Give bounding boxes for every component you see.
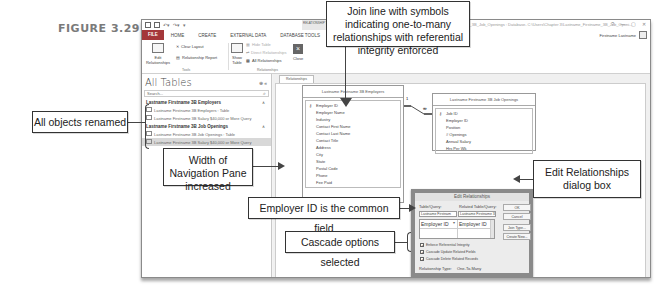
redo-icon[interactable]: ↷▾ (173, 22, 180, 28)
field-item[interactable]: Phone (306, 172, 400, 179)
related-table-select[interactable]: Lastname Firstname 3I (458, 211, 496, 217)
one-symbol: 1 (406, 96, 408, 101)
table-title[interactable]: Lastname Firstname 3B Employers (303, 86, 403, 98)
field-item[interactable]: Contact Title (306, 137, 400, 144)
nav-group-employers[interactable]: Lastname Firstname 3B Employers ∧ (142, 98, 271, 106)
relationship-type-label: Relationship Type: (419, 266, 452, 271)
dropdown-icon[interactable]: ▾ (453, 220, 455, 225)
nav-search-input[interactable]: Search... ⌕ (144, 90, 269, 97)
tab-external-data[interactable]: EXTERNAL DATA (223, 33, 273, 38)
field-item[interactable]: Hrs Per Wk (436, 145, 532, 152)
dialog-body: Table/Query: Related Table/Query: Lastna… (415, 201, 529, 277)
field-item[interactable]: Address (306, 144, 400, 151)
search-icon: ⌕ (263, 90, 266, 96)
callout-leader-line (520, 179, 533, 180)
show-table-icon (231, 43, 243, 53)
field-item[interactable]: Postal Code (306, 165, 400, 172)
ribbon-separator (228, 43, 229, 70)
close-button[interactable]: × Close (290, 44, 306, 61)
join-line[interactable]: 1 ∞ (404, 102, 432, 114)
show-table-button[interactable]: Show Table (230, 43, 244, 65)
tab-home[interactable]: HOME (164, 33, 192, 38)
primary-key-icon: ⚷ (309, 102, 312, 109)
user-name[interactable]: Firstname Lastname (600, 33, 636, 38)
arrow-right-icon (278, 162, 285, 170)
avatar[interactable] (639, 31, 647, 39)
customize-qat-icon[interactable]: ▾ (183, 22, 186, 28)
grid-scrollbar[interactable] (490, 220, 494, 238)
direct-relationships-icon: ⇌ (246, 50, 249, 55)
collapse-icon[interactable]: ∧ (262, 123, 265, 130)
callout-bracket (145, 104, 149, 149)
edit-relationships-button[interactable]: Edit Relationships (145, 43, 171, 65)
minimize-icon[interactable]: — (620, 21, 625, 27)
ok-button[interactable]: OK (503, 204, 531, 211)
callout-leader-line (395, 242, 407, 243)
field-item[interactable]: State (306, 158, 400, 165)
callout-leader-line (345, 47, 346, 100)
nav-item-salary-query-selected[interactable]: Lastname Firstname 3B Salary $40,000 or … (142, 138, 271, 146)
nav-pane-title[interactable]: All Tables (142, 74, 271, 89)
relationships-group-label: Relationships (257, 68, 278, 72)
enforce-integrity-checkbox[interactable]: ✓Enforce Referential Integrity (420, 243, 469, 247)
callout-leader-line (128, 122, 145, 123)
all-relationships-button[interactable]: ▩ All Relationships (246, 58, 282, 63)
table-query-select[interactable]: Lastname Firstnam (419, 211, 457, 217)
save-icon[interactable] (154, 22, 160, 28)
direct-relationships-button[interactable]: ⇌ Direct Relationships (246, 50, 287, 55)
cascade-delete-checkbox[interactable]: ✓Cascade Delete Related Records (420, 257, 478, 261)
callout-join-line: Join line with symbols indicating one-to… (326, 1, 470, 47)
close-window-icon[interactable]: ✕ (642, 21, 646, 27)
collapse-icon[interactable]: ∧ (262, 99, 265, 106)
dialog-title: Edit Relationships (415, 193, 529, 201)
table-employers[interactable]: Lastname Firstname 3B Employers ⚷Employe… (302, 85, 404, 203)
field-item[interactable]: Employer ID (436, 117, 532, 124)
join-type-button[interactable]: Join Type... (503, 224, 531, 231)
edit-relationships-dialog: Edit Relationships Table/Query: Related … (411, 189, 533, 277)
tab-relationships[interactable]: Relationships (279, 75, 314, 83)
maximize-icon[interactable]: ▢ (631, 21, 636, 27)
tab-database-tools[interactable]: DATABASE TOOLS (273, 33, 327, 38)
create-new-button[interactable]: Create New... (503, 233, 531, 240)
cancel-button[interactable]: Cancel (503, 213, 531, 220)
join-line-graphic (404, 104, 432, 116)
field-item[interactable]: Position (436, 124, 532, 131)
nav-item-salary-query[interactable]: Lastname Firstname 3B Salary $40,000 or … (142, 114, 271, 122)
field-mapping-grid[interactable]: Employer ID ▾ Employer ID (419, 219, 495, 239)
field-list: ⚷Job ID Employer ID Position # Openings … (435, 108, 533, 154)
all-relationships-icon: ▩ (246, 58, 250, 63)
left-field-cell[interactable]: Employer ID (421, 221, 449, 227)
close-icon: × (293, 44, 303, 54)
clear-layout-button[interactable]: ✕ Clear Layout (176, 44, 204, 49)
field-item[interactable]: Annual Salary (436, 138, 532, 145)
nav-item-job-openings-table[interactable]: Lastname Firstname 3B Job Openings : Tab… (142, 130, 271, 138)
field-item[interactable]: Contact Last Name (306, 130, 400, 137)
field-item[interactable]: Employer Name (306, 109, 400, 116)
callout-all-objects: All objects renamed (32, 111, 128, 133)
tab-file[interactable]: FILE (142, 30, 164, 40)
table-job-openings[interactable]: Lastname Firstname 3B Job Openings ⚷Job … (432, 93, 536, 151)
callout-nav-width: Width of Navigation Pane increased (163, 148, 253, 186)
undo-icon[interactable]: ↶▾ (163, 22, 170, 28)
cascade-update-checkbox[interactable]: ✓Cascade Update Related Fields (420, 250, 475, 254)
nav-item-employers-table[interactable]: Lastname Firstname 3B Employers : Table (142, 106, 271, 114)
callout-cascade: Cascade options selected (285, 231, 395, 253)
field-item[interactable]: Contact First Name (306, 123, 400, 130)
field-item[interactable]: # Openings (436, 131, 532, 138)
hide-table-button[interactable]: ▦ Hide Table (246, 42, 271, 47)
field-item[interactable]: ⚷Employer ID (306, 102, 400, 109)
field-item[interactable]: Industry (306, 116, 400, 123)
tab-create[interactable]: CREATE (191, 33, 223, 38)
help-icon[interactable]: ? (611, 21, 614, 27)
nav-group-job-openings[interactable]: Lastname Firstname 3B Job Openings ∧ (142, 122, 271, 130)
field-item[interactable]: City (306, 151, 400, 158)
field-item[interactable]: ⚷Job ID (436, 110, 532, 117)
table-title[interactable]: Lastname Firstname 3B Job Openings (433, 94, 535, 106)
field-item[interactable]: Fee Paid (306, 179, 400, 186)
nav-pane-controls[interactable]: ⊕ « (259, 80, 267, 86)
callout-common-field: Employer ID is the common field (248, 197, 400, 219)
right-field-cell[interactable]: Employer ID (459, 221, 487, 227)
checkbox-checked-icon: ✓ (420, 243, 424, 247)
relationship-report-button[interactable]: ▤ Relationship Report (176, 55, 217, 60)
tools-group-label: Tools (182, 68, 190, 72)
